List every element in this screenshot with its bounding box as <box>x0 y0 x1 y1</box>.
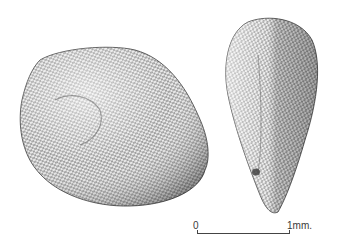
scale-end-label: 1mm. <box>287 221 312 231</box>
seed-lateral-view <box>20 47 208 206</box>
scale-line <box>197 230 290 234</box>
seed-edge-view <box>226 18 318 213</box>
seed-illustration: 0 1mm. <box>0 0 342 248</box>
hilum <box>252 169 260 176</box>
